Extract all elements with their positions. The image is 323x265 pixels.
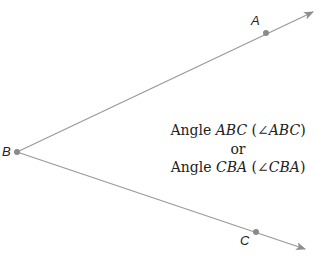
label-a: A (251, 14, 260, 27)
angle-diagram: A B C Angle ABC (∠ABC) or Angle CBA (∠CB… (0, 0, 323, 265)
label-b: B (2, 145, 11, 158)
point-b (14, 149, 20, 155)
label-c: C (240, 234, 249, 247)
angle-symbol: ∠ (257, 122, 269, 138)
angle-notation-abc: ABC (269, 122, 300, 138)
angle-name-cba: CBA (216, 159, 247, 175)
caption-line-3: Angle CBA (∠CBA) (158, 158, 318, 177)
caption-line-2: or (158, 140, 318, 159)
caption-line-1: Angle ABC (∠ABC) (158, 121, 318, 140)
caption-word: Angle (171, 159, 212, 175)
point-a (263, 30, 269, 36)
caption-word: Angle (170, 122, 211, 138)
angle-caption: Angle ABC (∠ABC) or Angle CBA (∠CBA) (158, 121, 318, 177)
angle-name-abc: ABC (216, 122, 247, 138)
angle-notation-cba: CBA (269, 159, 300, 175)
angle-symbol: ∠ (257, 159, 269, 175)
point-c (253, 229, 259, 235)
